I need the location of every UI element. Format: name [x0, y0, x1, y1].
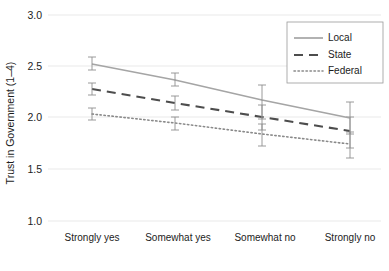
legend-label-local: Local [328, 32, 352, 43]
y-axis-tick-labels: 3.0 2.5 2.0 1.5 1.0 [27, 9, 42, 227]
legend-label-federal: Federal [328, 65, 362, 76]
legend[interactable]: Local State Federal [287, 22, 383, 83]
series-federal [88, 108, 354, 158]
y-tick-label: 2.0 [27, 111, 42, 123]
y-tick-label: 3.0 [27, 9, 42, 21]
y-tick-label: 1.0 [27, 215, 42, 227]
x-axis-category-labels: Strongly yes Somewhat yes Somewhat no St… [64, 232, 375, 243]
x-category-label-somewhat-no: Somewhat no [234, 232, 296, 243]
series-state [88, 83, 354, 148]
chart-container: 3.0 2.5 2.0 1.5 1.0 Trust in Government … [0, 0, 389, 271]
legend-label-state: State [328, 49, 352, 60]
series-federal-line [92, 114, 350, 144]
x-category-label-strongly-yes: Strongly yes [64, 232, 119, 243]
y-tick-label: 1.5 [27, 163, 42, 175]
x-category-label-somewhat-yes: Somewhat yes [145, 232, 211, 243]
x-category-label-strongly-no: Strongly no [325, 232, 376, 243]
line-chart-svg: 3.0 2.5 2.0 1.5 1.0 Trust in Government … [0, 0, 389, 271]
y-tick-label: 2.5 [27, 60, 42, 72]
y-axis-title: Trust in Government (1–4) [4, 62, 16, 185]
